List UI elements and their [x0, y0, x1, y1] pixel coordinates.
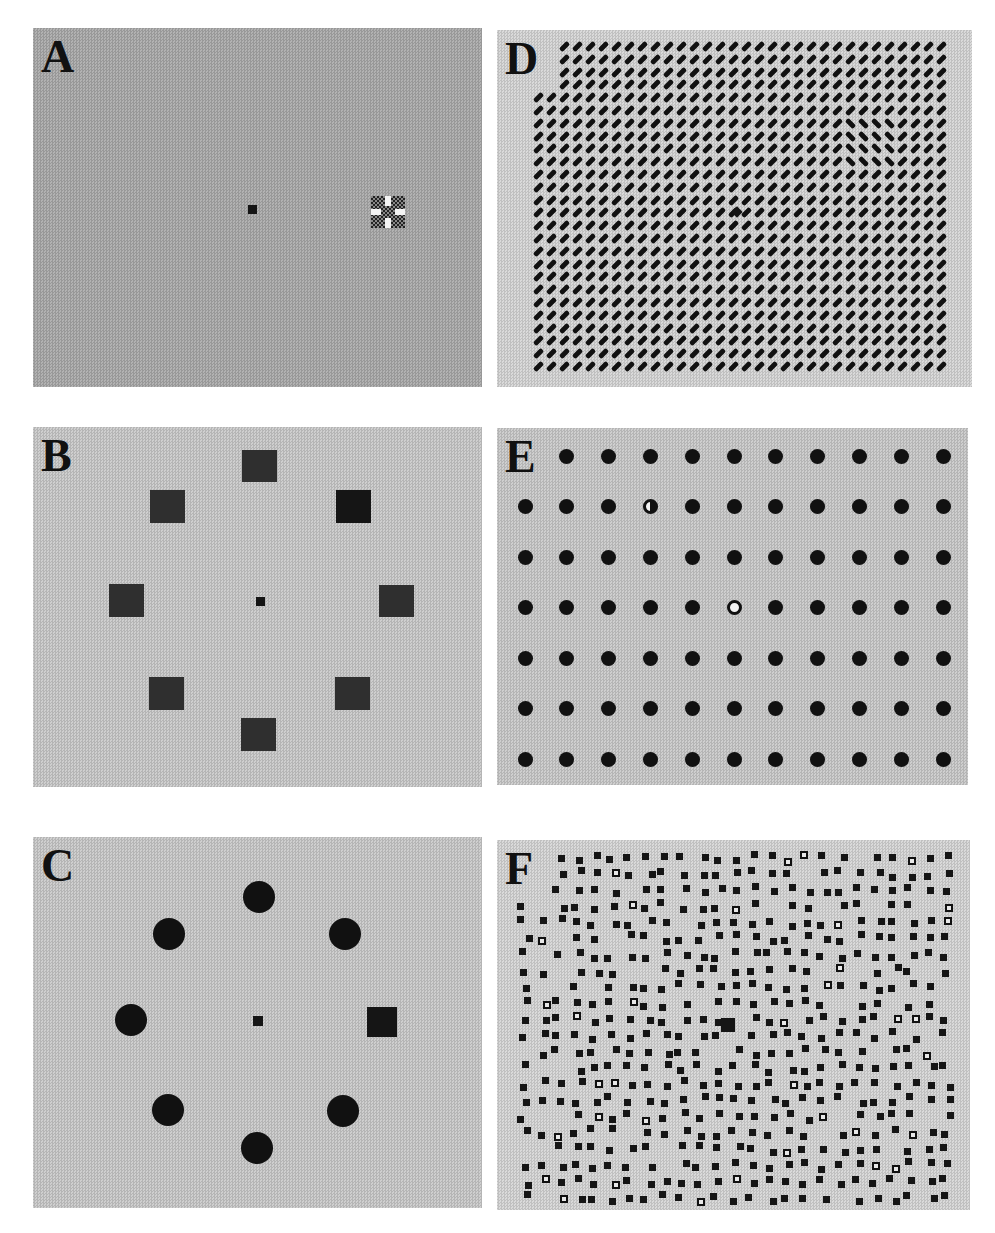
- grid-dot: [852, 752, 867, 767]
- array-square: [857, 869, 864, 876]
- array-square: [765, 1079, 772, 1086]
- array-square: [769, 852, 776, 859]
- array-square: [753, 1052, 760, 1059]
- texture-line: [806, 118, 817, 129]
- texture-line: [819, 41, 830, 52]
- array-square: [524, 1191, 531, 1198]
- grid-dot: [601, 600, 616, 615]
- texture-line: [624, 66, 635, 77]
- texture-line: [702, 322, 713, 333]
- texture-line: [754, 92, 765, 103]
- array-square: [664, 1083, 671, 1090]
- panel-label-d: D: [505, 36, 538, 82]
- open-square: [783, 1149, 791, 1157]
- texture-line: [559, 41, 570, 52]
- grid-dot: [894, 651, 909, 666]
- texture-line: [767, 41, 778, 52]
- array-square: [680, 1096, 687, 1103]
- texture-line: [728, 335, 739, 346]
- texture-line: [676, 194, 687, 205]
- odd-orientation-line: [871, 143, 882, 154]
- array-square: [702, 854, 709, 861]
- array-square: [945, 852, 952, 859]
- texture-line: [702, 297, 713, 308]
- array-square: [769, 870, 776, 877]
- array-square: [558, 1080, 565, 1087]
- array-square: [824, 936, 831, 943]
- array-square: [875, 1195, 882, 1202]
- texture-line: [819, 284, 830, 295]
- array-square: [816, 1079, 823, 1086]
- texture-line: [806, 156, 817, 167]
- array-square: [749, 1129, 756, 1136]
- array-square: [622, 1164, 629, 1171]
- texture-line: [598, 310, 609, 321]
- texture-line: [663, 335, 674, 346]
- texture-line: [897, 118, 908, 129]
- array-square: [856, 1064, 863, 1071]
- texture-line: [884, 169, 895, 180]
- array-square: [910, 980, 917, 987]
- texture-line: [546, 361, 557, 372]
- texture-line: [793, 130, 804, 141]
- texture-line: [819, 220, 830, 231]
- texture-line: [611, 284, 622, 295]
- array-square: [682, 1109, 689, 1116]
- texture-line: [624, 194, 635, 205]
- grid-dot: [518, 701, 533, 716]
- array-square: [853, 884, 860, 891]
- array-square: [877, 1113, 884, 1120]
- array-square: [733, 982, 740, 989]
- texture-line: [559, 194, 570, 205]
- texture-line: [624, 169, 635, 180]
- texture-line: [780, 66, 791, 77]
- array-square: [674, 1049, 681, 1056]
- texture-line: [702, 156, 713, 167]
- array-square: [753, 933, 760, 940]
- texture-line: [845, 92, 856, 103]
- texture-line: [884, 233, 895, 244]
- texture-line: [793, 143, 804, 154]
- texture-line: [572, 194, 583, 205]
- open-square: [944, 917, 952, 925]
- array-square: [561, 905, 568, 912]
- texture-line: [533, 271, 544, 282]
- checkerboard-target: [371, 196, 405, 228]
- array-square: [714, 857, 721, 864]
- array-square: [517, 916, 524, 923]
- array-square: [627, 1016, 634, 1023]
- open-square: [909, 1131, 917, 1139]
- texture-line: [832, 246, 843, 257]
- texture-line: [910, 322, 921, 333]
- texture-line: [689, 220, 700, 231]
- texture-line: [910, 348, 921, 359]
- texture-line: [819, 169, 830, 180]
- texture-line: [936, 79, 947, 90]
- grid-dot: [685, 499, 700, 514]
- grid-dot: [685, 550, 700, 565]
- array-square: [748, 1032, 755, 1039]
- texture-line: [650, 361, 661, 372]
- texture-line: [871, 284, 882, 295]
- texture-line: [858, 54, 869, 65]
- texture-line: [676, 246, 687, 257]
- array-square: [801, 1159, 808, 1166]
- open-square: [780, 1019, 788, 1027]
- grid-dot: [643, 449, 658, 464]
- array-square: [853, 900, 860, 907]
- texture-line: [858, 66, 869, 77]
- texture-line: [611, 54, 622, 65]
- texture-line: [689, 118, 700, 129]
- odd-orientation-line: [858, 156, 869, 167]
- open-square: [629, 901, 637, 909]
- texture-line: [624, 182, 635, 193]
- array-square: [658, 986, 665, 993]
- texture-line: [832, 41, 843, 52]
- texture-line: [728, 182, 739, 193]
- texture-line: [884, 258, 895, 269]
- array-square: [661, 1131, 668, 1138]
- texture-line: [572, 258, 583, 269]
- array-square: [766, 1019, 773, 1026]
- texture-line: [754, 169, 765, 180]
- texture-line: [767, 207, 778, 218]
